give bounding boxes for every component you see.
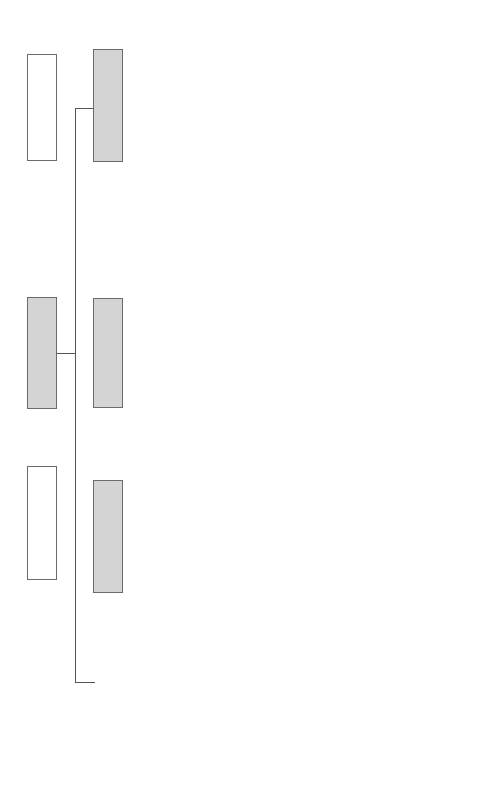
fato-tipico-box	[27, 297, 57, 409]
resultado-box	[93, 298, 123, 408]
conduta-box	[93, 49, 123, 162]
main-spine	[75, 108, 76, 683]
connector-fato-tipico	[57, 353, 75, 354]
nexo-causal-box	[93, 480, 123, 593]
crime-box	[27, 54, 57, 161]
antijuridico-box	[27, 466, 57, 580]
spine-to-tipicidade	[75, 682, 95, 683]
crime-concept-diagram	[0, 0, 488, 786]
spine-to-conduta	[75, 108, 95, 109]
